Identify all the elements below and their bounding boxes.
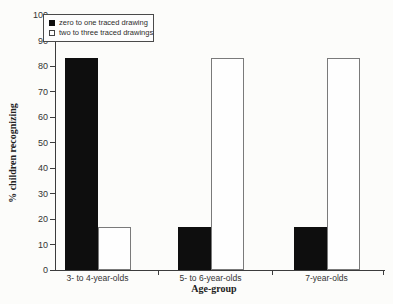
legend-label-two-to-three: two to three traced drawings (59, 29, 153, 37)
bar-white-group-2 (211, 58, 244, 270)
y-tick-label: 60 (22, 113, 48, 122)
y-tick-label: 20 (22, 215, 48, 224)
y-tick-label: 30 (22, 189, 48, 198)
bar-white-group-3 (327, 58, 360, 270)
legend: zero to one traced drawing two to three … (43, 14, 154, 42)
y-axis-tick (50, 66, 55, 67)
x-axis-tick (383, 271, 384, 275)
y-axis-title: % children recognizing (7, 103, 18, 203)
legend-swatch-white-square (49, 30, 55, 36)
bar-white-group-1 (98, 227, 131, 270)
y-axis-tick (50, 244, 55, 245)
bar-chart-figure: 01020304050607080901003- to 4-year-olds5… (0, 0, 393, 304)
y-axis-tick (50, 142, 55, 143)
y-axis-tick (50, 219, 55, 220)
plot-area: 01020304050607080901003- to 4-year-olds5… (55, 15, 383, 270)
y-axis-tick (50, 168, 55, 169)
x-category-label: 3- to 4-year-olds (43, 273, 153, 283)
legend-item-zero-to-one: zero to one traced drawing (49, 18, 149, 28)
bar-black-group-1 (65, 58, 98, 270)
y-tick-label: 50 (22, 138, 48, 147)
legend-item-two-to-three: two to three traced drawings (49, 28, 149, 38)
x-axis-title: Age-group (129, 283, 299, 294)
y-axis-tick (50, 117, 55, 118)
y-tick-label: 40 (22, 164, 48, 173)
y-tick-label: 10 (22, 240, 48, 249)
y-tick-label: 80 (22, 62, 48, 71)
bar-black-group-3 (294, 227, 327, 270)
y-axis-tick (50, 270, 55, 271)
y-axis-line (55, 15, 56, 270)
y-tick-label: 70 (22, 87, 48, 96)
bar-black-group-2 (178, 227, 211, 270)
y-axis-tick (50, 193, 55, 194)
x-category-label: 5- to 6-year-olds (156, 273, 266, 283)
y-axis-tick (50, 91, 55, 92)
x-axis-line (55, 270, 385, 271)
legend-swatch-black-square (49, 20, 55, 26)
x-category-label: 7-year-olds (272, 273, 382, 283)
legend-label-zero-to-one: zero to one traced drawing (59, 19, 148, 27)
